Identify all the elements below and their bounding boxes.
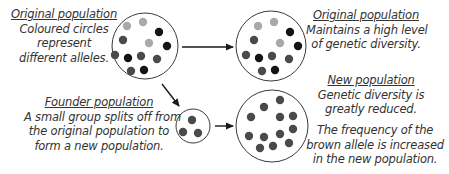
allele-dot-light <box>254 22 262 30</box>
label-heading: Original population <box>306 8 426 23</box>
allele-dot-dark <box>194 129 202 137</box>
allele-dot-light <box>139 18 147 26</box>
allele-dot-black <box>124 54 132 62</box>
allele-dot-dark <box>285 55 293 63</box>
label-line: of genetic diversity. <box>306 37 426 52</box>
allele-dot-dark <box>137 52 145 60</box>
allele-dot-dark <box>276 96 284 104</box>
allele-dot-dark <box>276 130 284 138</box>
note-line: in the new population. <box>306 152 444 167</box>
allele-dot-black <box>140 66 148 74</box>
allele-dot-dark <box>276 113 284 121</box>
label-line: different alleles. <box>8 51 120 66</box>
label-line: form a new population. <box>24 139 174 154</box>
allele-dot-dark <box>256 144 264 152</box>
label-line: greatly reduced. <box>306 102 436 117</box>
allele-dot-dark <box>242 51 250 59</box>
allele-dot-dark <box>269 142 277 150</box>
allele-dot-dark <box>260 103 268 111</box>
allele-dot-black <box>155 28 163 36</box>
original-population-left-label: Original population Coloured circles rep… <box>8 7 120 65</box>
allele-dot-light <box>276 39 284 47</box>
population-boundary <box>176 109 210 143</box>
allele-dot-dark <box>289 112 297 120</box>
allele-frequency-note: The frequency of the brown allele is inc… <box>306 123 444 167</box>
population-boundary <box>236 90 308 162</box>
allele-dot-dark <box>179 128 187 136</box>
allele-dot-dark <box>188 116 196 124</box>
allele-dot-dark <box>289 125 297 133</box>
label-line: Genetic diversity is <box>306 88 436 103</box>
allele-dot-black <box>294 42 302 50</box>
original-population-later-circle <box>236 11 306 81</box>
allele-dot-dark <box>119 36 127 44</box>
original-population-right-label: Original population Maintains a high lev… <box>306 8 426 52</box>
allele-dot-dark <box>285 139 293 147</box>
label-heading: Founder population <box>24 95 174 110</box>
label-line: Maintains a high level <box>306 23 426 38</box>
label-heading: New population <box>306 73 436 88</box>
allele-dot-black <box>255 54 263 62</box>
label-line: A small group splits off from <box>24 110 174 125</box>
label-line: Coloured circles <box>8 22 120 37</box>
new-population-label: New population Genetic diversity is grea… <box>306 73 436 117</box>
allele-dot-light <box>123 22 131 30</box>
allele-dot-light <box>270 18 278 26</box>
original-population-circle <box>111 13 178 79</box>
allele-dot-dark <box>258 67 266 75</box>
label-line: represent <box>8 36 120 51</box>
allele-dot-light <box>145 39 153 47</box>
allele-dot-black <box>286 28 294 36</box>
allele-dot-dark <box>247 113 255 121</box>
label-line: the original population to <box>24 124 174 139</box>
allele-dot-black <box>163 42 171 50</box>
new-population-circle <box>236 90 308 162</box>
allele-dot-dark <box>153 55 161 63</box>
label-heading: Original population <box>8 7 120 22</box>
allele-dot-dark <box>260 133 268 141</box>
note-line: brown allele is increased <box>306 138 444 153</box>
allele-dot-dark <box>127 67 135 75</box>
founder-population-label: Founder population A small group splits … <box>24 95 174 153</box>
allele-dot-dark <box>268 52 276 60</box>
note-line: The frequency of the <box>306 123 444 138</box>
allele-dot-black <box>271 66 279 74</box>
allele-dot-dark <box>250 36 258 44</box>
allele-dot-dark <box>245 132 253 140</box>
founder-population-circle <box>176 109 210 143</box>
